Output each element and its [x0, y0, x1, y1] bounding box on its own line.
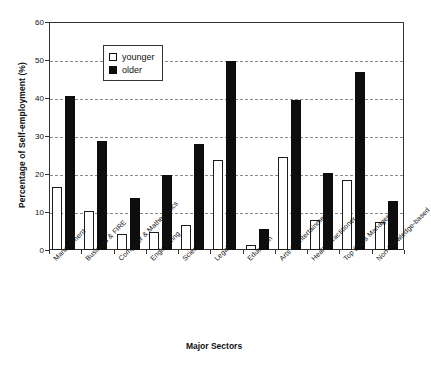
legend-label-younger: younger — [122, 52, 155, 62]
x-tick-mark — [81, 250, 82, 254]
legend-label-older: older — [122, 65, 142, 75]
x-tick-mark — [146, 250, 147, 254]
bar-group — [178, 22, 210, 250]
bar-group — [243, 22, 275, 250]
y-tick-label: 20 — [14, 170, 44, 179]
y-tick-label: 50 — [14, 56, 44, 65]
x-tick-mark — [404, 250, 405, 254]
y-tick-label: 10 — [14, 208, 44, 217]
x-tick-mark — [49, 250, 50, 254]
legend-item-younger: younger — [109, 50, 155, 63]
bar-group — [49, 22, 81, 250]
y-tick-label: 60 — [14, 18, 44, 27]
bar-older — [194, 144, 204, 250]
legend-item-older: older — [109, 63, 155, 76]
bar-older — [291, 100, 301, 250]
legend-swatch-older — [109, 66, 117, 74]
x-axis-title: Major Sectors — [0, 341, 428, 351]
bar-group — [275, 22, 307, 250]
bar-group — [339, 22, 371, 250]
bar-younger — [181, 225, 191, 250]
y-tick-label: 40 — [14, 94, 44, 103]
bar-group — [210, 22, 242, 250]
bar-older — [65, 96, 75, 250]
bar-younger — [213, 160, 223, 250]
x-tick-mark — [275, 250, 276, 254]
bar-older — [226, 61, 236, 250]
y-tick-label: 0 — [14, 246, 44, 255]
x-tick-mark — [114, 250, 115, 254]
x-tick-mark — [307, 250, 308, 254]
bar-younger — [52, 187, 62, 250]
bar-younger — [278, 157, 288, 250]
x-tick-mark — [178, 250, 179, 254]
legend-swatch-younger — [109, 53, 117, 61]
x-tick-mark — [372, 250, 373, 254]
x-tick-mark — [243, 250, 244, 254]
x-tick-mark — [210, 250, 211, 254]
y-tick-label: 30 — [14, 132, 44, 141]
chart-legend: younger older — [103, 45, 163, 81]
x-tick-mark — [339, 250, 340, 254]
bar-older — [355, 72, 365, 250]
